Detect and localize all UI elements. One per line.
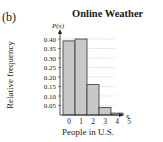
x-tick-label: 0 xyxy=(67,117,71,126)
y-tick-label: 0.15 xyxy=(44,83,57,91)
y-tick-label: 0.35 xyxy=(44,45,57,53)
y-axis-arrow-icon xyxy=(58,29,62,34)
y-tick-label: 0.25 xyxy=(44,64,57,72)
histogram: 0.050.100.150.200.250.300.350.40012345x xyxy=(0,0,163,142)
bar xyxy=(63,41,75,115)
y-tick-label: 0.30 xyxy=(44,55,57,63)
y-tick-label: 0.20 xyxy=(44,74,57,82)
bar xyxy=(99,107,111,115)
bar xyxy=(87,85,99,115)
x-tick-label: 4 xyxy=(115,117,119,126)
x-tick-label: 3 xyxy=(103,117,107,126)
y-tick-label: 0.40 xyxy=(44,36,57,44)
y-tick-label: 0.10 xyxy=(44,93,57,101)
bar xyxy=(75,39,87,115)
y-tick-label: 0.05 xyxy=(44,102,57,110)
x-tick-label: 1 xyxy=(79,117,83,126)
x-tick-label: 2 xyxy=(91,117,95,126)
